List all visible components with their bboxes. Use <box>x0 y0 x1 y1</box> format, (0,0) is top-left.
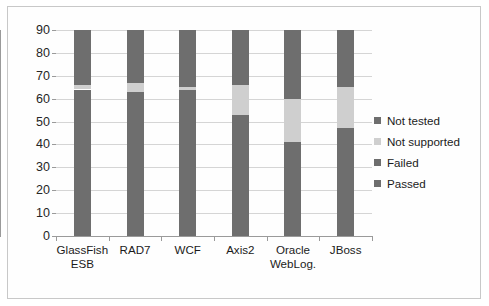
bar-segment-passed <box>232 115 249 236</box>
x-axis-tick-mark <box>319 237 320 241</box>
x-axis-label-line: WebLog. <box>258 257 328 271</box>
y-axis-tick-label: 20 <box>6 184 50 196</box>
gridline <box>56 76 372 77</box>
y-axis-tick-label: 80 <box>6 47 50 59</box>
x-axis-tick-mark <box>214 237 215 241</box>
y-axis-tick-mark <box>52 122 56 123</box>
y-axis-tick-label: 0 <box>6 230 50 242</box>
bar-segment-passed <box>179 90 196 236</box>
y-axis-tick-label: 90 <box>6 24 50 36</box>
y-axis-tick-label: 70 <box>6 70 50 82</box>
y-axis-tick-label: 30 <box>6 161 50 173</box>
bar-segment-not-supported <box>179 87 196 89</box>
legend-item-label: Passed <box>387 177 426 190</box>
stacked-bar <box>284 30 301 236</box>
stacked-bar <box>232 30 249 236</box>
legend-swatch-icon <box>374 117 381 124</box>
y-axis-tick-label: 10 <box>6 207 50 219</box>
bar-segment-not-supported <box>127 83 144 92</box>
x-axis-label: JBoss <box>311 243 381 257</box>
bar-segment-not-supported <box>284 99 301 142</box>
legend-item-label: Not tested <box>387 114 440 127</box>
y-axis-tick-mark <box>52 144 56 145</box>
chart-figure: 0102030405060708090 GlassFishESBRAD7WCFA… <box>0 0 489 306</box>
legend-item[interactable]: Not supported <box>374 131 478 152</box>
gridline <box>56 167 372 168</box>
y-axis-tick-mark <box>52 30 56 31</box>
bar-segment-not-tested <box>127 30 144 83</box>
stacked-bar <box>127 30 144 236</box>
y-axis-line <box>0 30 1 237</box>
legend-item-label: Failed <box>387 156 419 169</box>
chart-legend: Not testedNot supportedFailedPassed <box>374 110 478 194</box>
legend-item[interactable]: Failed <box>374 152 478 173</box>
stacked-bar <box>337 30 354 236</box>
bar-segment-not-tested <box>179 30 196 87</box>
legend-item-label: Not supported <box>387 135 460 148</box>
y-axis-tick-label: 50 <box>6 116 50 128</box>
y-axis-tick-mark <box>52 167 56 168</box>
legend-swatch-icon <box>374 180 381 187</box>
x-axis-label-line: ESB <box>47 257 117 271</box>
bar-segment-not-tested <box>232 30 249 85</box>
x-axis-label-line: JBoss <box>311 243 381 257</box>
x-axis-tick-mark <box>267 237 268 241</box>
bar-segment-not-supported <box>232 85 249 115</box>
bar-segment-not-tested <box>337 30 354 87</box>
legend-item[interactable]: Passed <box>374 173 478 194</box>
bar-segment-not-supported <box>74 85 91 90</box>
legend-swatch-icon <box>374 138 381 145</box>
bar-segment-not-tested <box>284 30 301 99</box>
plot-area <box>56 30 372 236</box>
y-axis-tick-mark <box>52 76 56 77</box>
gridline <box>56 190 372 191</box>
y-axis-tick-mark <box>52 99 56 100</box>
bar-segment-passed <box>127 92 144 236</box>
legend-swatch-icon <box>374 159 381 166</box>
y-axis-tick-label: 40 <box>6 138 50 150</box>
bar-segment-not-supported <box>337 87 354 128</box>
x-axis-tick-mark <box>56 237 57 241</box>
stacked-bar <box>74 30 91 236</box>
bar-segment-not-tested <box>74 30 91 85</box>
y-axis-tick-mark <box>52 213 56 214</box>
gridline <box>56 99 372 100</box>
bar-segment-passed <box>284 142 301 236</box>
gridline <box>56 144 372 145</box>
y-axis-tick-mark <box>52 53 56 54</box>
gridline <box>56 53 372 54</box>
legend-item[interactable]: Not tested <box>374 110 478 131</box>
stacked-bar <box>179 30 196 236</box>
bar-segment-passed <box>337 128 354 236</box>
x-axis-tick-mark <box>161 237 162 241</box>
y-axis-tick-mark <box>52 190 56 191</box>
y-axis-tick-label: 60 <box>6 93 50 105</box>
gridline <box>56 122 372 123</box>
gridline <box>56 213 372 214</box>
gridline <box>56 30 372 31</box>
x-axis-tick-mark <box>372 237 373 241</box>
x-axis-tick-mark <box>109 237 110 241</box>
bar-segment-passed <box>74 90 91 236</box>
